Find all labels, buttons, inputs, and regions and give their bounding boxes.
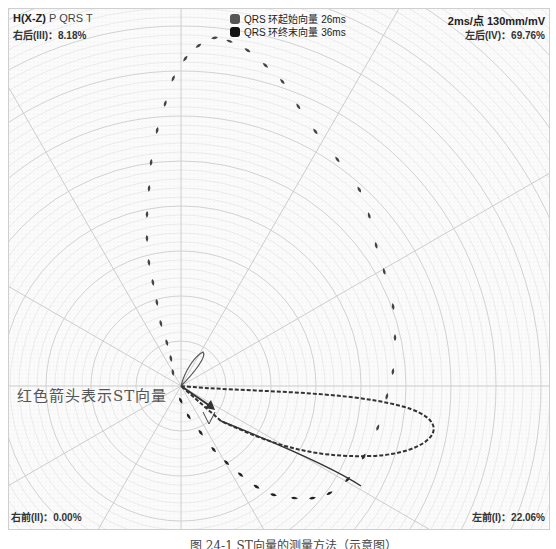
quadrant-left-posterior: 左后(IV)：69.76% [465, 27, 545, 42]
st-vector-annotation: 红色箭头表示ST向量 [17, 384, 167, 405]
figure-caption: 图 24-1 ST向量的测量方法（示意图） [190, 536, 397, 549]
vcg-plot-frame: H(X-Z) P QRS T 右后(III)：8.18% QRS 环起始向量 2… [8, 8, 550, 530]
legend-label-terminal: QRS 环终末向量 36ms [244, 24, 346, 39]
legend-swatch-terminal-icon [230, 27, 240, 37]
legend-swatch-initial-icon [230, 14, 240, 24]
plot-title: H(X-Z) P QRS T [13, 12, 93, 24]
quadrant-left-anterior: 左前(I)：22.06% [472, 509, 545, 524]
wave-label: P QRS T [49, 12, 93, 24]
plane-label: H(X-Z) [13, 12, 46, 24]
quadrant-right-posterior: 右后(III)：8.18% [13, 27, 86, 42]
scale-label: 2ms/点 130mm/mV [448, 12, 545, 28]
polar-grid-plot [9, 9, 549, 529]
quadrant-right-anterior: 右前(II)：0.00% [11, 509, 82, 524]
legend-item-terminal: QRS 环终末向量 36ms [230, 25, 346, 38]
legend: QRS 环起始向量 26ms QRS 环终末向量 36ms [230, 12, 346, 38]
